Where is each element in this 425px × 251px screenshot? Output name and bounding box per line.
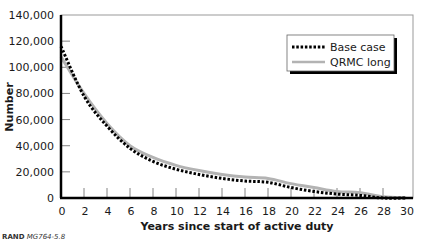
x-tick-label: 12 bbox=[193, 205, 207, 218]
legend: Base case QRMC long bbox=[287, 35, 397, 74]
y-tick-label: 0 bbox=[47, 192, 54, 205]
y-tick-label: 100,000 bbox=[9, 61, 55, 74]
x-tick-label: 20 bbox=[285, 205, 299, 218]
y-tick-label: 40,000 bbox=[16, 140, 55, 153]
x-axis-title: Years since start of active duty bbox=[139, 220, 333, 233]
x-tick-label: 10 bbox=[170, 205, 184, 218]
x-tick-label: 24 bbox=[331, 205, 345, 218]
x-tick-label: 6 bbox=[128, 205, 135, 218]
x-tick-label: 14 bbox=[216, 205, 230, 218]
x-tick-label: 26 bbox=[354, 205, 368, 218]
x-tick-label: 16 bbox=[239, 205, 253, 218]
x-tick-label: 30 bbox=[400, 205, 414, 218]
x-tick-label: 18 bbox=[262, 205, 276, 218]
source-id: MG764-5.8 bbox=[27, 233, 65, 241]
x-tick-label: 8 bbox=[151, 205, 158, 218]
line-chart: 020,00040,00060,00080,000100,000120,0001… bbox=[0, 0, 425, 251]
y-tick-label: 120,000 bbox=[9, 35, 55, 48]
series-line-qrmc-long bbox=[61, 57, 406, 198]
source-org: RAND bbox=[2, 233, 24, 241]
x-tick-label: 4 bbox=[105, 205, 112, 218]
legend-label-base-case: Base case bbox=[330, 41, 386, 54]
y-tick-label: 80,000 bbox=[16, 87, 55, 100]
x-tick-label: 0 bbox=[59, 205, 66, 218]
source-note: RAND MG764-5.8 bbox=[2, 233, 65, 241]
y-tick-label: 140,000 bbox=[9, 9, 55, 22]
x-tick-label: 22 bbox=[308, 205, 322, 218]
x-tick-label: 28 bbox=[377, 205, 391, 218]
legend-label-qrmc-long: QRMC long bbox=[330, 56, 391, 69]
y-axis-title: Number bbox=[3, 82, 16, 132]
x-tick-label: 2 bbox=[82, 205, 89, 218]
y-tick-label: 60,000 bbox=[16, 114, 55, 127]
y-tick-label: 20,000 bbox=[16, 166, 55, 179]
